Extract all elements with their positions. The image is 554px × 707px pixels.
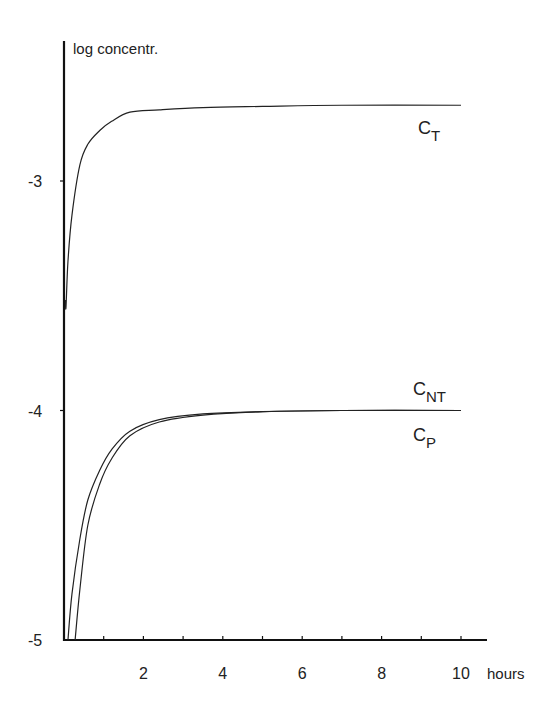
x-tick-label: 10 xyxy=(452,665,470,682)
series-line-cp xyxy=(75,410,461,640)
x-axis-label: hours xyxy=(487,665,525,682)
x-tick-label: 6 xyxy=(298,665,307,682)
chart-canvas: -3-4-5 246810 log concentr. hours CT CNT… xyxy=(0,0,554,707)
series-group xyxy=(66,105,462,640)
series-line-ct xyxy=(66,105,462,309)
series-label-cnt: CNT xyxy=(413,379,446,405)
x-tick-label: 8 xyxy=(377,665,386,682)
x-tick-label: 2 xyxy=(139,665,148,682)
y-tick-label: -5 xyxy=(28,632,42,649)
series-label-ct: CT xyxy=(418,118,440,144)
y-ticks: -3-4-5 xyxy=(28,173,64,649)
x-tick-label: 4 xyxy=(218,665,227,682)
series-line-cnt xyxy=(68,410,461,640)
y-axis-label: log concentr. xyxy=(73,40,158,57)
series-label-cp: CP xyxy=(413,425,436,451)
y-tick-label: -3 xyxy=(28,173,42,190)
y-tick-label: -4 xyxy=(28,403,42,420)
x-ticks: 246810 xyxy=(104,636,470,682)
